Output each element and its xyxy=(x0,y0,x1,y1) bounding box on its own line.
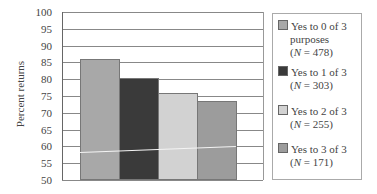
y-tick-label: 80 xyxy=(22,74,52,85)
y-tick-label: 50 xyxy=(22,175,52,186)
y-tick-label: 100 xyxy=(22,7,52,18)
legend-n: (N = 171) xyxy=(278,156,362,169)
y-tick-label: 60 xyxy=(22,141,52,152)
gridline-90 xyxy=(62,46,263,47)
y-tick-label: 95 xyxy=(22,24,52,35)
y-tick-label: 90 xyxy=(22,41,52,52)
legend-label: Yes to 1 of 3 xyxy=(291,66,347,78)
legend-swatch-icon xyxy=(278,66,288,76)
legend-label-line2: purposes xyxy=(278,33,362,46)
legend-label: Yes to 2 of 3 xyxy=(291,105,347,117)
legend-label: Yes to 3 of 3 xyxy=(291,143,347,155)
legend-item-0: Yes to 0 of 3 purposes (N = 478) xyxy=(278,20,362,59)
y-tick-label: 70 xyxy=(22,108,52,119)
y-tick-label: 85 xyxy=(22,57,52,68)
legend-n: (N = 255) xyxy=(278,118,362,131)
y-axis xyxy=(62,12,63,180)
legend: Yes to 0 of 3 purposes (N = 478) Yes to … xyxy=(272,13,362,180)
legend-swatch-icon xyxy=(278,143,288,153)
legend-item-3: Yes to 3 of 3 (N = 171) xyxy=(278,143,362,169)
legend-item-2: Yes to 2 of 3 (N = 255) xyxy=(278,105,362,131)
y-tick-label: 55 xyxy=(22,158,52,169)
bar-series-3 xyxy=(197,101,237,180)
legend-label: Yes to 0 of 3 xyxy=(291,20,347,32)
legend-item-1: Yes to 1 of 3 (N = 303) xyxy=(278,66,362,92)
legend-swatch-icon xyxy=(278,105,288,115)
gridline-50 xyxy=(62,180,263,181)
legend-swatch-icon xyxy=(278,20,288,30)
legend-n: (N = 303) xyxy=(278,79,362,92)
bar-series-1 xyxy=(119,78,159,180)
gridline-95 xyxy=(62,29,263,30)
y-tick-label: 75 xyxy=(22,91,52,102)
gridline-100 xyxy=(62,12,263,13)
bar-series-2 xyxy=(158,93,198,180)
y-tick-label: 65 xyxy=(22,125,52,136)
legend-n: (N = 478) xyxy=(278,46,362,59)
bar-series-0 xyxy=(80,59,120,180)
